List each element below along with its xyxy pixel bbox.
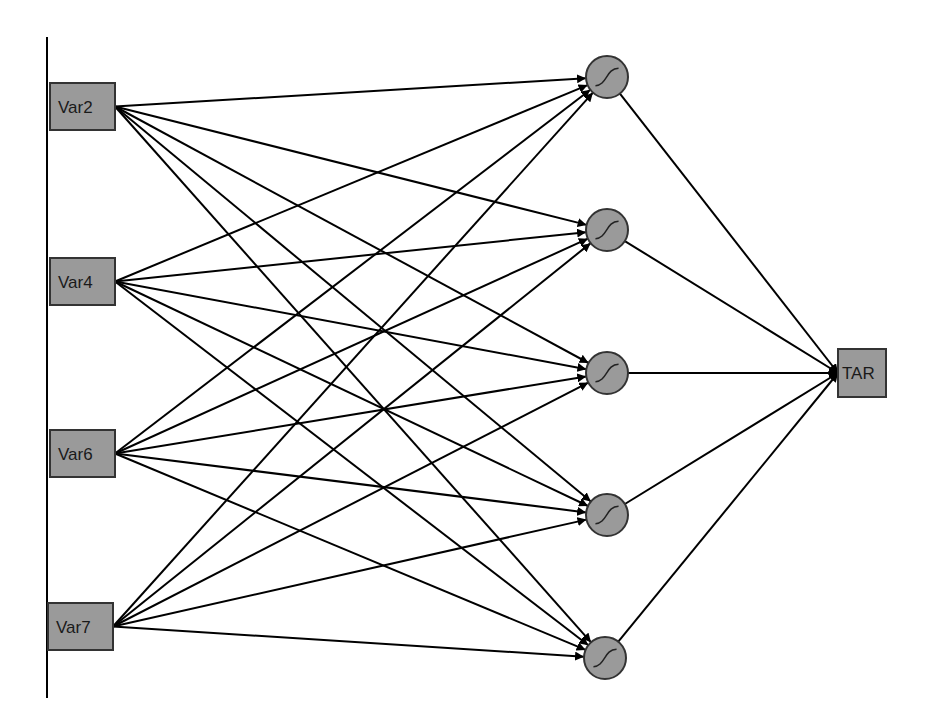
edge-var7-h4 (113, 520, 587, 627)
hidden-node-h4 (586, 494, 628, 536)
edge-var7-h1 (113, 93, 593, 627)
edge-var7-h2 (113, 243, 591, 626)
edge-var4-h3 (115, 282, 586, 370)
input-node-label: Var7 (56, 618, 91, 637)
connection-edges (113, 78, 838, 656)
hidden-node-h5 (584, 637, 626, 679)
hidden-node-h1 (586, 56, 628, 98)
hidden-node-h3 (586, 352, 628, 394)
edge-var6-h3 (115, 376, 586, 453)
input-layer: Var2Var4Var6Var7 (48, 83, 115, 650)
edge-var2-h5 (115, 107, 591, 643)
neural-network-diagram: Var2Var4Var6Var7 TAR (0, 0, 934, 725)
input-node-var4: Var4 (50, 258, 115, 305)
edge-var4-h4 (115, 282, 588, 506)
edge-var7-h5 (113, 627, 584, 657)
edge-h4-tar (625, 373, 838, 504)
hidden-layer (584, 56, 628, 679)
input-node-var7: Var7 (48, 603, 113, 650)
input-node-var2: Var2 (50, 83, 115, 130)
output-node-tar: TAR (838, 349, 886, 397)
edge-h5-tar (618, 373, 838, 642)
input-node-label: Var6 (58, 445, 93, 464)
edge-var2-h1 (115, 78, 586, 106)
edge-h1-tar (620, 94, 838, 373)
edge-h2-tar (625, 241, 838, 373)
edge-var6-h2 (115, 239, 588, 454)
input-node-var6: Var6 (50, 430, 115, 477)
edge-var4-h1 (115, 85, 588, 281)
input-node-label: Var2 (58, 98, 93, 117)
hidden-node-h2 (586, 209, 628, 251)
input-node-label: Var4 (58, 273, 93, 292)
output-layer: TAR (838, 349, 886, 397)
output-node-label: TAR (842, 364, 875, 383)
